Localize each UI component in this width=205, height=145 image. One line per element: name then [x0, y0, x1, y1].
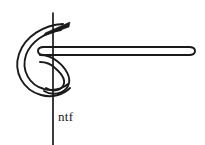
figure-canvas: ntf [0, 0, 205, 145]
suture-diagram-svg [0, 0, 205, 145]
figure-background [0, 0, 205, 145]
